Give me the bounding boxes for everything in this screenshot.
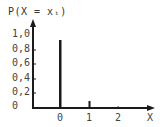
chart-plot	[0, 0, 162, 127]
bar-x2	[118, 107, 120, 109]
bar-x1	[89, 101, 91, 108]
y-axis-arrow-icon	[30, 19, 36, 27]
x-axis-arrow-icon	[147, 105, 155, 111]
bar-x0	[59, 40, 62, 108]
